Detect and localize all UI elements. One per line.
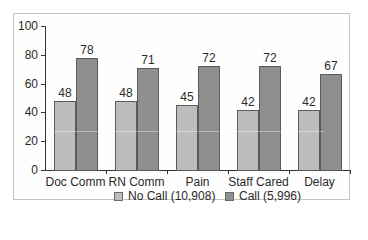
value-label: 42 [237,96,259,108]
value-label: 42 [298,96,320,108]
x-tick [289,170,290,174]
y-tick-label: 80 [10,49,38,61]
y-tick-label: 40 [10,106,38,118]
value-label: 67 [320,60,342,72]
legend-item-call: Call (5,996) [225,190,301,202]
no-call-swatch [114,192,123,201]
y-axis [45,26,46,171]
x-tick-label: Doc Comm [45,176,106,189]
y-tick [41,170,45,171]
x-tick [350,170,351,174]
bar-call [76,58,98,171]
bar-no-call [176,105,198,171]
y-tick [41,26,45,27]
x-tick [167,170,168,174]
value-label: 48 [54,87,76,99]
call-swatch [225,192,234,201]
x-tick [228,170,229,174]
bar-no-call [298,110,320,171]
x-tick-label: Pain [167,176,228,189]
value-label: 45 [176,91,198,103]
x-tick-label: Delay [289,176,350,189]
y-tick-label: 100 [10,20,38,32]
y-tick [41,84,45,85]
bar-no-call [115,101,137,171]
y-tick [41,141,45,142]
y-tick-label: 0 [10,164,38,176]
legend-label-no-call: No Call (10,908) [128,190,215,202]
y-tick-label: 20 [10,135,38,147]
bar-call [137,68,159,171]
value-label: 72 [259,52,281,64]
x-tick [106,170,107,174]
bar-call [259,66,281,171]
value-label: 72 [198,52,220,64]
value-label: 78 [76,44,98,56]
y-tick [41,112,45,113]
legend-label-call: Call (5,996) [239,190,301,202]
bar-call [320,74,342,171]
y-tick-label: 60 [10,78,38,90]
value-label: 48 [115,87,137,99]
y-tick [41,55,45,56]
x-tick-label: RN Comm [106,176,167,189]
legend-item-no-call: No Call (10,908) [114,190,215,202]
bar-call [198,66,220,171]
bar-highlight-line [54,131,324,132]
bar-no-call [54,101,76,171]
bar-no-call [237,110,259,171]
value-label: 71 [137,54,159,66]
x-tick-label: Staff Cared [228,176,289,189]
